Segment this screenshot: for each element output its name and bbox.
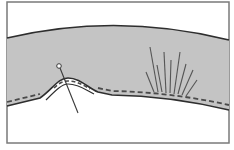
sewing-diagram xyxy=(0,0,234,150)
pin-head xyxy=(57,64,62,69)
